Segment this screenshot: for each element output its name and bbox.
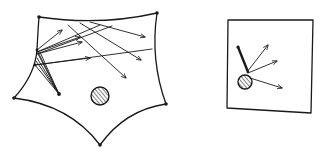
- reflected-ray-arrow: [90, 22, 145, 37]
- curved-polygon-outline: [14, 13, 166, 145]
- outgoing-arrow: [247, 45, 268, 72]
- ray-line: [37, 26, 112, 54]
- sketch-diagram: [0, 0, 322, 152]
- panel-box: [227, 20, 313, 113]
- shaded-wedge: [35, 50, 59, 94]
- outgoing-arrow: [248, 61, 277, 73]
- rays: [35, 22, 152, 78]
- hatched-ball: [238, 75, 252, 89]
- stick-tip-dot: [236, 45, 239, 48]
- outgoing-arrow: [250, 78, 282, 88]
- stick: [238, 47, 248, 72]
- hatched-obstacle: [91, 87, 109, 105]
- right-panel: [227, 20, 313, 113]
- left-panel: [12, 11, 168, 147]
- vertex-dots: [12, 11, 168, 147]
